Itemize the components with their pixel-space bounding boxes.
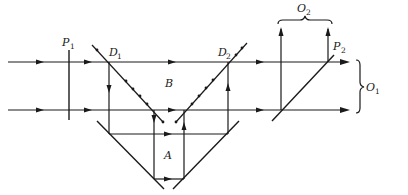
- arrow-icon: [164, 177, 172, 182]
- label-b: B: [164, 77, 173, 90]
- svg-text:B: B: [164, 77, 173, 90]
- arrow-icon: [340, 59, 350, 65]
- beam-bottom: [8, 107, 350, 113]
- arrow-up-icon: [279, 27, 284, 36]
- svg-text:1: 1: [70, 42, 75, 51]
- label-d2: D 2: [217, 46, 231, 61]
- svg-text:2: 2: [226, 52, 231, 61]
- label-a: A: [163, 149, 172, 162]
- arrow-icon: [84, 60, 92, 65]
- arrow-icon: [164, 132, 172, 137]
- arrow-icon: [36, 108, 44, 113]
- label-p2: P 2: [332, 40, 346, 55]
- svg-text:2: 2: [341, 46, 346, 55]
- arrow-icon: [36, 60, 44, 65]
- brace-o1: [356, 60, 364, 113]
- arrow-up-icon: [182, 122, 187, 130]
- svg-text:P: P: [332, 40, 341, 53]
- label-d1: D 1: [108, 46, 122, 61]
- arrow-icon: [84, 108, 92, 113]
- svg-text:A: A: [163, 149, 172, 162]
- label-o1: O 1: [366, 81, 380, 96]
- svg-text:1: 1: [375, 87, 380, 96]
- arrow-icon: [340, 107, 350, 113]
- arrow-down-icon: [107, 85, 112, 93]
- svg-text:1: 1: [117, 52, 122, 61]
- optical-diagram: P 1 D 1 D 2 P 2 B A O 2 O 1: [0, 0, 408, 195]
- arrow-up-icon: [326, 27, 331, 36]
- brace-o2: [278, 16, 332, 24]
- label-o2: O 2: [297, 2, 311, 17]
- arrow-icon: [168, 108, 176, 113]
- arrow-icon: [256, 60, 264, 65]
- arrow-icon: [168, 60, 176, 65]
- beam-splitter-d2: [175, 43, 247, 123]
- arrow-icon: [256, 108, 264, 113]
- svg-text:O: O: [366, 81, 375, 94]
- arrow-up-icon: [226, 83, 231, 91]
- arrow-down-icon: [152, 115, 157, 123]
- svg-text:P: P: [61, 36, 70, 49]
- svg-text:O: O: [297, 2, 306, 15]
- beam-top: [8, 59, 350, 65]
- label-p1: P 1: [61, 36, 75, 51]
- svg-text:2: 2: [306, 8, 311, 17]
